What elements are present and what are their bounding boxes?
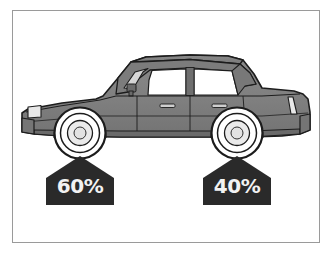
diagram-canvas: 60% 40%: [0, 0, 333, 261]
rear-axle-load-badge: 40%: [203, 156, 271, 205]
front-wheel: [55, 108, 106, 159]
rear-side-window: [194, 69, 238, 95]
rear-bumper: [300, 114, 310, 134]
rear-badge-value: 40%: [214, 174, 261, 198]
rear-door-handle: [212, 104, 227, 108]
rear-wheel: [212, 108, 263, 159]
front-side-window: [148, 69, 186, 95]
vehicle-weight-distribution-illustration: 60% 40%: [0, 0, 333, 261]
headlight: [28, 106, 41, 119]
b-pillar: [186, 68, 194, 96]
front-badge-value: 60%: [57, 174, 104, 198]
vehicle-group: [22, 55, 310, 159]
front-bumper: [22, 118, 34, 134]
front-door-handle: [160, 104, 175, 108]
front-axle-load-badge: 60%: [46, 156, 114, 205]
